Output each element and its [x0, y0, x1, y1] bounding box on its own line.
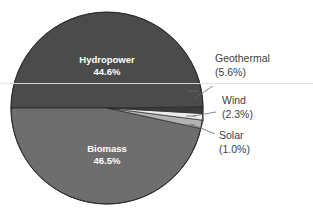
callout-label-solar-value: (1.0%) [219, 143, 250, 155]
pie-slices [11, 12, 203, 204]
slice-label-biomass-name: Biomass [87, 143, 127, 154]
slice-label-biomass-value: 46.5% [94, 155, 121, 166]
callout-label-wind-value: (2.3%) [222, 108, 253, 120]
slice-label-hydropower-name: Hydropower [79, 54, 135, 65]
pie-chart-figure: Hydropower 44.6% Biomass 46.5% Geotherma… [0, 0, 313, 219]
callout-label-solar-name: Solar [219, 129, 244, 141]
callout-label-wind-name: Wind [222, 94, 246, 106]
slice-label-hydropower-value: 44.6% [94, 66, 121, 77]
callout-label-geothermal-value: (5.6%) [215, 66, 246, 78]
callout-label-geothermal-name: Geothermal [215, 52, 270, 64]
